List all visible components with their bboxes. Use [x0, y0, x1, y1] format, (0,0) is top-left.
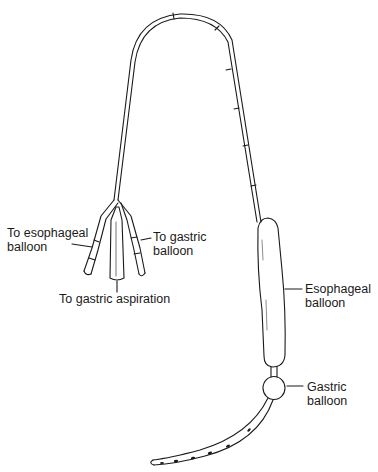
- tube-diagram: To esophageal balloon To gastric balloon…: [0, 0, 378, 472]
- label-to-esophageal-balloon: To esophageal balloon: [7, 226, 88, 254]
- label-gastric-balloon: Gastric balloon: [307, 380, 347, 408]
- main-tube: [114, 13, 261, 222]
- gastric-balloon: [263, 377, 285, 400]
- distal-tail: [151, 398, 273, 465]
- label-to-gastric-balloon: To gastric balloon: [153, 230, 207, 258]
- label-esophageal-balloon: Esophageal balloon: [305, 282, 371, 310]
- label-to-gastric-aspiration: To gastric aspiration: [59, 292, 170, 306]
- leader-gastric-port: [141, 238, 151, 240]
- port-fork: [84, 200, 145, 280]
